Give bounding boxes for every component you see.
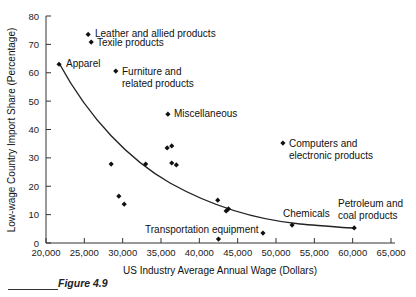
y-tick-label: 10 [28, 209, 39, 220]
label-apparel: Apparel [66, 58, 100, 69]
y-tick-label: 20 [28, 181, 39, 192]
x-tick-label: 65,000 [376, 247, 405, 258]
x-tick-label: 25,000 [70, 247, 99, 258]
label-computers-1: Computers and [289, 138, 357, 149]
data-point-diamond-icon [215, 198, 220, 203]
label-textile: Texile products [97, 37, 164, 48]
data-point-diamond-icon [165, 112, 170, 117]
x-tick-label: 40,000 [185, 247, 214, 258]
data-point-diamond-icon [86, 32, 91, 37]
label-furniture-2: related products [122, 78, 194, 89]
x-tick-label: 50,000 [261, 247, 290, 258]
y-ticks: 01020304050607080 [28, 11, 51, 249]
label-miscellaneous: Miscellaneous [174, 108, 237, 119]
x-tick-label: 45,000 [223, 247, 252, 258]
x-tick-label: 20,000 [31, 247, 60, 258]
label-computers-2: electronic products [289, 150, 373, 161]
label-furniture-1: Furniture and [122, 66, 181, 77]
data-point-diamond-icon [113, 68, 118, 73]
x-tick-label: 30,000 [108, 247, 137, 258]
y-tick-label: 60 [28, 67, 39, 78]
y-tick-label: 40 [28, 124, 39, 135]
x-tick-label: 55,000 [300, 247, 329, 258]
scatter-chart: 01020304050607080 20,00025,00030,00035,0… [0, 0, 416, 297]
x-tick-label: 35,000 [146, 247, 175, 258]
data-point-diamond-icon [169, 160, 174, 165]
point-labels: Apparel Leather and allied products Texi… [66, 28, 403, 235]
data-point-diamond-icon [260, 230, 265, 235]
label-chemicals: Chemicals [283, 208, 330, 219]
data-point-diamond-icon [352, 225, 357, 230]
y-tick-label: 30 [28, 152, 39, 163]
label-petroleum-2: coal products [338, 210, 397, 221]
label-petroleum-1: Petroleum and [338, 198, 403, 209]
y-tick-label: 70 [28, 39, 39, 50]
figure-caption: Figure 4.9 [58, 277, 108, 289]
data-point-diamond-icon [122, 202, 127, 207]
x-tick-label: 60,000 [338, 247, 367, 258]
y-tick-label: 50 [28, 96, 39, 107]
y-tick-label: 80 [28, 11, 39, 22]
label-transportation: Transportation equipment [145, 224, 259, 235]
data-point-diamond-icon [165, 145, 170, 150]
x-axis-title: US Industry Average Annual Wage (Dollars… [123, 265, 317, 276]
data-point-diamond-icon [116, 194, 121, 199]
data-point-diamond-icon [89, 40, 94, 45]
caption-rule [8, 289, 58, 290]
data-point-diamond-icon [109, 162, 114, 167]
data-point-diamond-icon [216, 236, 221, 241]
data-point-diamond-icon [280, 141, 285, 146]
y-axis-title: Low-wage Country Import Share (Percentag… [6, 28, 17, 233]
data-point-diamond-icon [174, 162, 179, 167]
data-point-diamond-icon [169, 143, 174, 148]
